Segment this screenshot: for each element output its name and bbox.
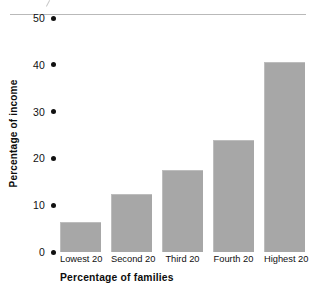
- bar-series: [60, 18, 305, 252]
- y-tick: 0: [39, 246, 60, 258]
- bar: [264, 62, 305, 252]
- y-tick-label: 50: [33, 12, 45, 24]
- bar: [162, 170, 203, 252]
- bar-slot: [264, 18, 305, 252]
- y-tick-dot-icon: [51, 250, 56, 255]
- y-tick: 40: [33, 59, 60, 71]
- y-tick-label: 40: [33, 59, 45, 71]
- y-tick: 50: [33, 12, 60, 24]
- x-tick-label: Third 20: [162, 254, 203, 264]
- y-tick-label: 0: [39, 246, 45, 258]
- y-tick: 20: [33, 152, 60, 164]
- bar-slot: [60, 18, 101, 252]
- x-tick-label: Highest 20: [264, 254, 305, 264]
- bar: [213, 140, 254, 252]
- x-axis-title: Percentage of families: [60, 272, 290, 283]
- bar-slot: [213, 18, 254, 252]
- bar-slot: [162, 18, 203, 252]
- bar: [60, 222, 101, 252]
- y-tick-label: 20: [33, 152, 45, 164]
- x-tick-label: Lowest 20: [60, 254, 101, 264]
- x-axis-tick-labels: Lowest 20Second 20Third 20Fourth 20Highe…: [60, 254, 305, 264]
- x-tick-label: Fourth 20: [213, 254, 254, 264]
- bar: [111, 194, 152, 253]
- x-tick-label: Second 20: [111, 254, 152, 264]
- y-tick: 30: [33, 106, 60, 118]
- y-tick-dot-icon: [51, 16, 56, 21]
- scan-artifact-mark: [46, 0, 58, 11]
- y-tick-dot-icon: [51, 62, 56, 67]
- y-tick-label: 10: [33, 199, 45, 211]
- bar-chart-figure: 01020304050 Lowest 20Second 20Third 20Fo…: [0, 0, 313, 307]
- y-tick: 10: [33, 199, 60, 211]
- y-tick-dot-icon: [51, 203, 56, 208]
- y-tick-dot-icon: [51, 156, 56, 161]
- plot-area: [60, 18, 305, 252]
- y-tick-label: 30: [33, 106, 45, 118]
- y-tick-dot-icon: [51, 109, 56, 114]
- bar-slot: [111, 18, 152, 252]
- y-axis-title: Percentage of income: [8, 69, 19, 199]
